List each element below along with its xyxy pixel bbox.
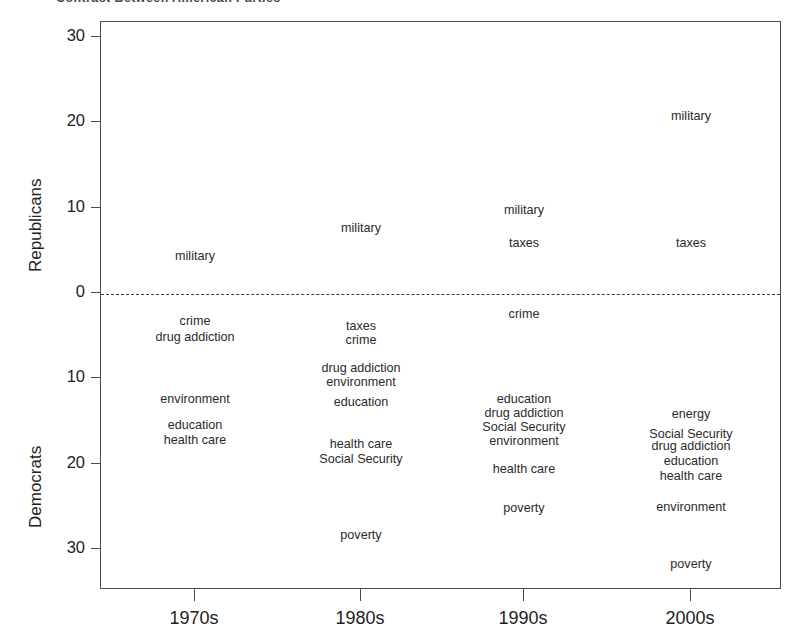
data-label-1980s-health-care: health care [330,438,392,451]
x-tick-mark [194,589,195,601]
x-tick-mark [523,589,524,601]
data-label-2000s-drug-addiction: drug addiction [651,439,730,452]
zero-reference-line [101,294,780,295]
data-label-1980s-social-security: Social Security [319,453,402,466]
data-label-1990s-environment: environment [489,434,558,447]
data-label-2000s-military: military [671,109,711,122]
y-tick-label: 20 [67,111,85,130]
data-label-1970s-drug-addiction: drug addiction [155,330,234,343]
data-label-2000s-taxes: taxes [676,236,706,249]
x-tick-label: 2000s [644,608,736,629]
data-label-1990s-crime: crime [509,308,540,321]
data-label-1990s-social-security: Social Security [482,421,565,434]
y-tick-label: 10 [67,367,85,386]
data-label-1980s-environment: environment [326,375,395,388]
data-label-1970s-education: education [168,419,223,432]
x-tick-label: 1990s [477,608,569,629]
data-label-2000s-environment: environment [656,501,725,514]
data-label-1990s-military: military [504,203,544,216]
y-tick-label: 30 [67,26,85,45]
data-label-1990s-health-care: health care [493,462,555,475]
y-tick-label: 10 [67,197,85,216]
y-tick-mark [91,548,100,549]
x-tick-label: 1980s [314,608,406,629]
data-label-2000s-energy: energy [672,408,711,421]
y-tick-mark [91,36,100,37]
data-label-1980s-crime: crime [346,334,377,347]
data-label-1970s-crime: crime [180,315,211,328]
data-label-2000s-health-care: health care [660,469,722,482]
y-tick-mark [91,377,100,378]
x-tick-label: 1970s [148,608,240,629]
y-axis-label-democrats: Democrats [26,446,46,528]
x-tick-mark [690,589,691,601]
data-label-1980s-education: education [334,396,389,409]
data-label-1990s-taxes: taxes [509,236,539,249]
data-label-1970s-environment: environment [160,392,229,405]
y-tick-mark [91,463,100,464]
data-label-2000s-education: education [664,455,719,468]
chart-figure: Contrast Between American Parties Republ… [0,0,796,640]
data-label-1980s-poverty: poverty [340,529,381,542]
chart-title-clipped: Contrast Between American Parties [56,0,476,5]
data-label-1980s-taxes: taxes [346,320,376,333]
x-tick-mark [360,589,361,601]
data-label-1970s-health-care: health care [164,433,226,446]
data-label-2000s-poverty: poverty [670,557,711,570]
y-tick-label: 0 [76,282,85,301]
y-tick-label: 20 [67,453,85,472]
plot-area: militarycrimedrug addictionenvironmented… [100,21,781,589]
y-tick-label: 30 [67,538,85,557]
data-label-1990s-education: education [497,392,552,405]
data-label-1980s-drug-addiction: drug addiction [321,362,400,375]
data-label-1980s-military: military [341,222,381,235]
y-tick-mark [91,207,100,208]
data-label-1990s-poverty: poverty [503,502,544,515]
y-tick-mark [91,292,100,293]
data-label-1990s-drug-addiction: drug addiction [484,407,563,420]
data-label-1970s-military: military [175,249,215,262]
y-tick-mark [91,121,100,122]
y-axis-label-republicans: Republicans [26,178,46,272]
